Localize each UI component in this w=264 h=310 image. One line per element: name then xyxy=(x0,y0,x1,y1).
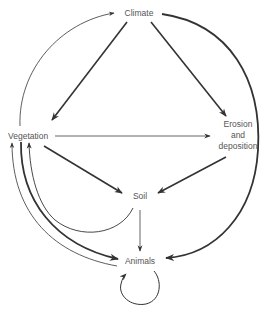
node-soil-label: Soil xyxy=(128,191,152,202)
edge-animals-to-vegetation xyxy=(12,143,117,266)
node-animals-label: Animals xyxy=(121,256,159,267)
node-climate: Climate xyxy=(119,8,159,19)
edge-erosion-to-soil xyxy=(158,157,226,193)
edge-vegetation-to-climate xyxy=(20,13,114,126)
node-erosion-line2: and xyxy=(214,130,262,141)
edge-vegetation-to-soil xyxy=(44,146,122,193)
edge-vegetation-to-animals xyxy=(21,142,118,259)
node-vegetation-label: Vegetation xyxy=(8,131,54,142)
node-erosion-line1: Erosion xyxy=(214,119,262,130)
edge-animals-self-loop xyxy=(121,271,160,304)
node-climate-label: Climate xyxy=(119,8,159,19)
edge-climate-to-vegetation xyxy=(52,22,127,120)
node-erosion-line3: deposition xyxy=(214,141,262,152)
node-soil: Soil xyxy=(128,191,152,202)
node-vegetation: Vegetation xyxy=(8,131,54,142)
node-erosion-and-deposition: Erosion and deposition xyxy=(214,119,262,152)
edge-soil-to-vegetation xyxy=(29,143,133,232)
node-animals: Animals xyxy=(121,256,159,267)
